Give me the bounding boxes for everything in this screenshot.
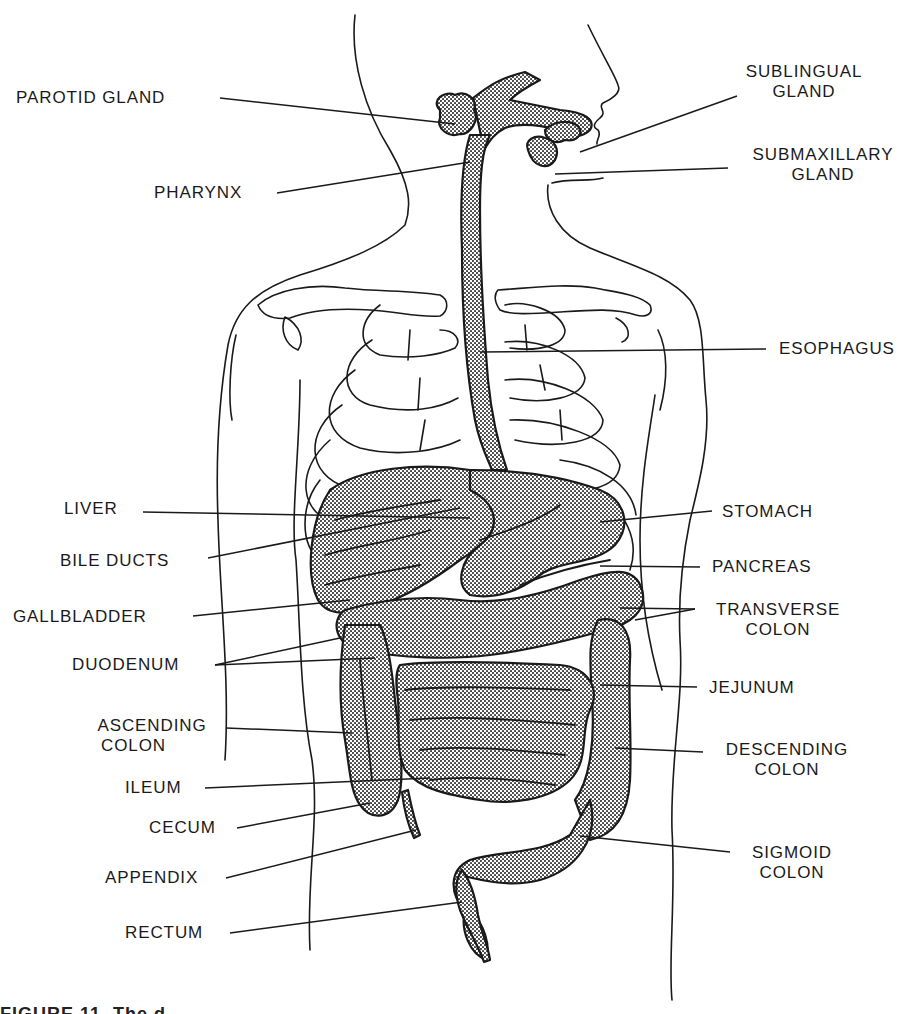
leader-transverse-colon-a [620, 608, 695, 609]
label-transverse-colon-line1: TRANSVERSE [702, 600, 854, 620]
label-ascending-colon-line2: COLON [84, 736, 220, 756]
small-intestine [396, 662, 593, 802]
leader-sublingual-gland [580, 96, 737, 152]
label-gallbladder: GALLBLADDER [13, 607, 147, 627]
label-transverse-colon-line2: COLON [702, 620, 854, 640]
label-bile-ducts: BILE DUCTS [60, 551, 169, 571]
leader-rectum [230, 902, 462, 933]
label-appendix: APPENDIX [105, 868, 198, 888]
label-parotid-gland: PAROTID GLAND [16, 88, 165, 108]
label-submaxillary-gland-line2: GLAND [728, 165, 918, 185]
parotid-gland [437, 93, 476, 134]
label-esophagus: ESOPHAGUS [779, 339, 895, 359]
leader-ascending-colon [226, 728, 352, 733]
leader-appendix [226, 830, 416, 878]
label-descending-colon-line1: DESCENDING [712, 740, 862, 760]
label-transverse-colon: TRANSVERSE COLON [702, 600, 854, 640]
label-sublingual-gland: SUBLINGUAL GLAND [727, 62, 881, 102]
label-pancreas: PANCREAS [712, 557, 811, 577]
label-duodenum: DUODENUM [72, 655, 179, 675]
label-submaxillary-gland: SUBMAXILLARY GLAND [728, 145, 918, 185]
leader-cecum [237, 803, 370, 828]
label-sigmoid-colon: SIGMOID COLON [740, 843, 844, 883]
label-jejunum: JEJUNUM [709, 678, 795, 698]
label-submaxillary-gland-line1: SUBMAXILLARY [728, 145, 918, 165]
leader-parotid-gland [220, 98, 455, 124]
label-ileum: ILEUM [125, 778, 181, 798]
label-sublingual-gland-line1: SUBLINGUAL [727, 62, 881, 82]
label-ascending-colon: ASCENDING COLON [84, 716, 220, 756]
label-descending-colon: DESCENDING COLON [712, 740, 862, 780]
label-descending-colon-line2: COLON [712, 760, 862, 780]
leader-pancreas [600, 566, 700, 567]
label-sublingual-gland-line2: GLAND [727, 82, 881, 102]
leader-submaxillary-gland [555, 168, 728, 174]
label-liver: LIVER [64, 499, 118, 519]
label-stomach: STOMACH [722, 502, 813, 522]
leader-pharynx [277, 162, 470, 193]
label-ascending-colon-line1: ASCENDING [84, 716, 220, 736]
submaxillary-gland [527, 137, 557, 166]
digestive-organs [311, 72, 643, 962]
label-sigmoid-colon-line1: SIGMOID [740, 843, 844, 863]
leader-sigmoid-colon [580, 836, 730, 852]
figure-caption-partial: FIGURE 11. The d [0, 1004, 166, 1014]
label-rectum: RECTUM [125, 923, 203, 943]
label-cecum: CECUM [149, 818, 216, 838]
label-sigmoid-colon-line2: COLON [740, 863, 844, 883]
label-pharynx: PHARYNX [154, 183, 242, 203]
esophagus [461, 135, 507, 470]
